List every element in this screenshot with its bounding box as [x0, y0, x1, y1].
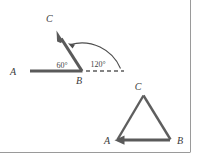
geometry-figure-svg: A C B 60° 120° C A B	[0, 0, 201, 160]
ray-bc-arrowhead	[57, 31, 64, 43]
triangle-label-a: A	[103, 135, 111, 146]
triangle-side-ca	[118, 96, 144, 140]
label-angle-120: 120°	[90, 60, 105, 69]
triangle-label-c: C	[135, 81, 142, 92]
triangle-side-cb	[144, 96, 171, 140]
label-ray-c: C	[46, 13, 53, 24]
figure-canvas: A C B 60° 120° C A B	[0, 0, 201, 160]
triangle-label-b: B	[177, 135, 183, 146]
label-ray-a: A	[9, 66, 17, 77]
label-angle-60: 60°	[56, 61, 67, 70]
label-vertex-b: B	[76, 75, 82, 86]
